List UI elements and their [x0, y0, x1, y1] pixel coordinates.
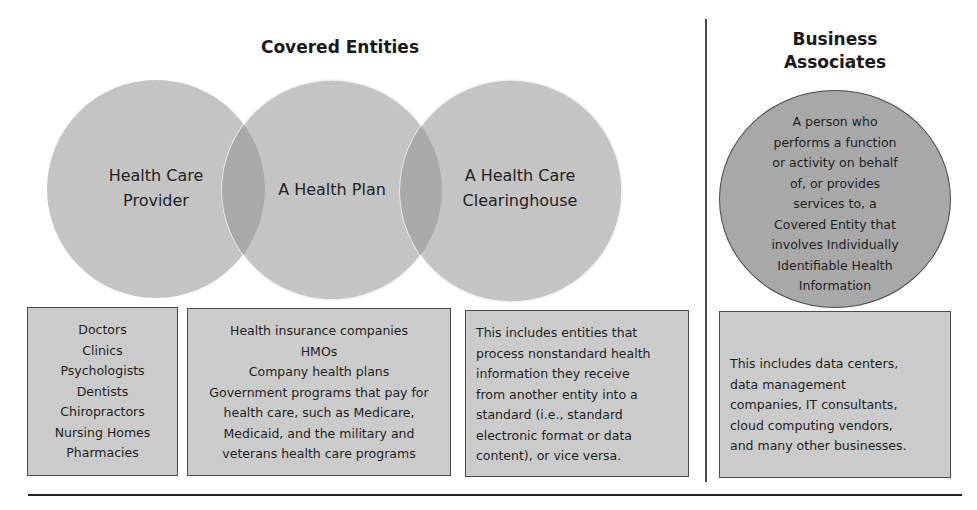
- circle-label-line: A Health Plan: [262, 177, 402, 202]
- business-associates-title: Business Associates: [735, 28, 935, 74]
- box-line: HMOs: [188, 342, 450, 363]
- definition-line: services to, a: [735, 194, 935, 215]
- definition-line: Identifiable Health: [735, 256, 935, 277]
- box-line: standard (i.e., standard: [476, 405, 678, 426]
- box-line: data management: [730, 375, 940, 396]
- circle-label-line: Provider: [86, 188, 226, 213]
- box-health-plan-examples: Health insurance companies HMOs Company …: [187, 308, 451, 476]
- definition-line: involves Individually: [735, 235, 935, 256]
- box-line: This includes entities that: [476, 323, 678, 344]
- box-line: Clinics: [28, 341, 177, 362]
- box-line: Nursing Homes: [28, 423, 177, 444]
- circle-label-line: Clearinghouse: [445, 188, 595, 213]
- circle-label-line: A Health Care: [445, 163, 595, 188]
- box-line: content), or vice versa.: [476, 446, 678, 467]
- circle-label-clearinghouse: A Health Care Clearinghouse: [445, 163, 595, 213]
- box-line: and many other businesses.: [730, 436, 940, 457]
- box-line: process nonstandard health: [476, 344, 678, 365]
- box-line: Psychologists: [28, 361, 177, 382]
- box-line: Dentists: [28, 382, 177, 403]
- box-line: companies, IT consultants,: [730, 395, 940, 416]
- circle-label-provider: Health Care Provider: [86, 163, 226, 213]
- section-divider: [705, 19, 707, 482]
- box-line: electronic format or data: [476, 426, 678, 447]
- box-line: Company health plans: [188, 362, 450, 383]
- circle-label-health-plan: A Health Plan: [262, 177, 402, 202]
- box-line: Health insurance companies: [188, 321, 450, 342]
- definition-line: A person who: [735, 112, 935, 133]
- covered-entities-venn: [0, 0, 705, 320]
- box-business-associate-examples: This includes data centers, data managem…: [719, 311, 951, 478]
- box-line: veterans health care programs: [188, 444, 450, 465]
- definition-line: of, or provides: [735, 174, 935, 195]
- definition-line: Covered Entity that: [735, 215, 935, 236]
- box-line: information they receive: [476, 364, 678, 385]
- box-clearinghouse-description: This includes entities that process nons…: [465, 310, 689, 477]
- box-line: cloud computing vendors,: [730, 416, 940, 437]
- title-line: Associates: [735, 51, 935, 74]
- circle-label-line: Health Care: [86, 163, 226, 188]
- box-line: Medicaid, and the military and: [188, 424, 450, 445]
- bottom-rule: [28, 494, 962, 496]
- box-line: Pharmacies: [28, 443, 177, 464]
- definition-line: Information: [735, 276, 935, 297]
- box-line: This includes data centers,: [730, 354, 940, 375]
- definition-line: performs a function: [735, 133, 935, 154]
- box-line: Chiropractors: [28, 402, 177, 423]
- box-line: Government programs that pay for: [188, 383, 450, 404]
- box-line: health care, such as Medicare,: [188, 403, 450, 424]
- box-provider-examples: Doctors Clinics Psychologists Dentists C…: [27, 307, 178, 476]
- box-line: Doctors: [28, 320, 177, 341]
- definition-line: or activity on behalf: [735, 153, 935, 174]
- business-associate-definition: A person who performs a function or acti…: [735, 112, 935, 297]
- title-line: Business: [735, 28, 935, 51]
- box-line: from another entity into a: [476, 385, 678, 406]
